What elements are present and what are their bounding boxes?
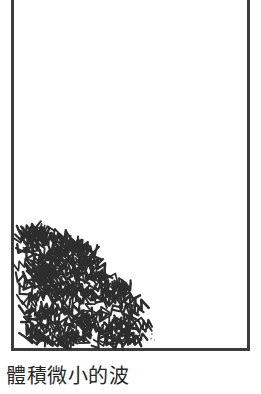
frame-left-border — [11, 0, 14, 351]
figure-caption: 體積微小的波 — [6, 363, 129, 389]
wave-squiggle-field — [0, 0, 261, 394]
frame-bottom-border — [11, 348, 250, 351]
frame-right-border — [247, 0, 250, 351]
figure-root: 體積微小的波 — [0, 0, 261, 394]
